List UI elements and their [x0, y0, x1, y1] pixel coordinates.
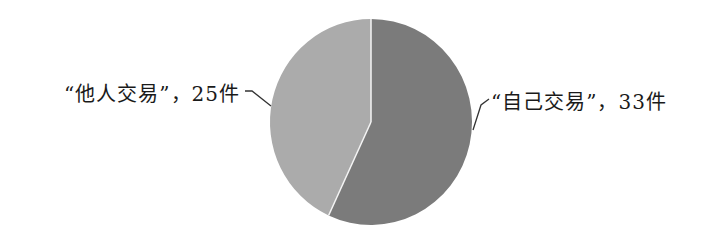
pie-chart-svg: [0, 0, 724, 250]
pie-chart: “他人交易”，25件 “自己交易”，33件: [0, 0, 724, 250]
leader-line-right: [473, 99, 489, 130]
data-label-self-trade: “自己交易”，33件: [491, 90, 667, 114]
data-label-other-trade: “他人交易”，25件: [64, 82, 240, 106]
leader-line-left: [245, 91, 271, 106]
